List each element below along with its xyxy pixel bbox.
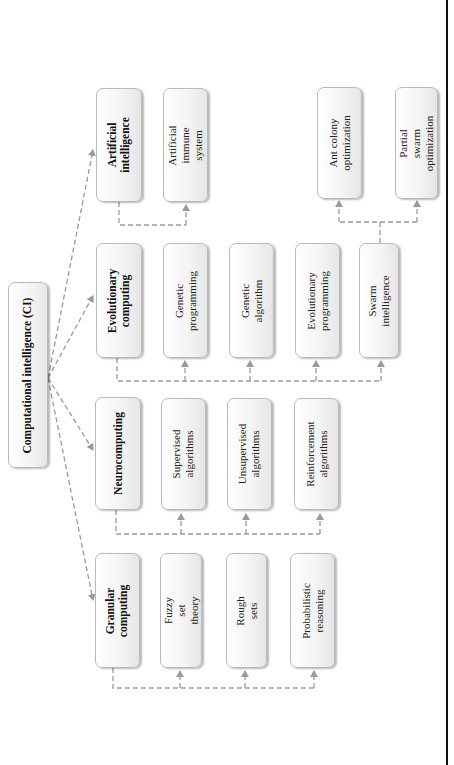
node-partial-swarm-optimization: Partial swarm optimization [395,87,438,199]
node-label: Evolutionary programming [305,271,331,331]
node-evolutionary-computing: Evolutionary computing [96,243,142,358]
node-label: Rough sets [234,591,260,630]
node-rough-sets: Rough sets [226,553,267,668]
node-swarm-intelligence: Swarm intelligence [359,243,399,358]
node-label: Supervised algorithms [171,430,197,479]
node-computational-intelligence: Computational intelligence (CI) [8,282,48,468]
node-label: Swarm intelligence [366,275,392,326]
node-label: Artificial intelligence [106,117,132,173]
node-label: Partial swarm optimization [397,115,436,171]
node-label: Probabilistic reasoning [300,583,326,639]
node-label: Unsupervised algorithms [237,424,263,485]
ci-taxonomy-diagram: Computational intelligence (CI) Artifici… [0,0,454,765]
node-reinforcement-algorithms: Reinforcement algorithms [294,398,339,510]
node-artificial-intelligence: Artificial intelligence [96,88,142,202]
node-label: Genetic algorithm [239,279,265,322]
node-label: Artificial immune system [166,124,205,167]
node-label: Reinforcement algorithms [304,421,330,486]
node-probabilistic-reasoning: Probabilistic reasoning [290,553,335,668]
node-label: Computational intelligence (CI) [22,297,35,453]
node-genetic-programming: Genetic programming [163,243,208,358]
node-granular-computing: Granular computing [95,553,140,668]
node-evolutionary-programming: Evolutionary programming [295,243,340,358]
node-genetic-algorithm: Genetic algorithm [229,243,274,358]
node-label: Ant colony optimization [327,115,353,171]
node-artificial-immune-system: Artificial immune system [163,88,208,202]
node-label: Fuzzy set theory [162,591,201,631]
node-label: Granular computing [105,584,131,636]
node-fuzzy-set-theory: Fuzzy set theory [160,553,202,668]
node-supervised-algorithms: Supervised algorithms [161,398,206,510]
page-edge-line [446,0,448,765]
node-unsupervised-algorithms: Unsupervised algorithms [227,398,272,510]
node-ant-colony-optimization: Ant colony optimization [317,87,362,199]
node-label: Genetic programming [173,271,199,331]
node-label: Neurocomputing [112,412,125,495]
node-label: Evolutionary computing [106,268,132,333]
node-neurocomputing: Neurocomputing [95,397,141,510]
